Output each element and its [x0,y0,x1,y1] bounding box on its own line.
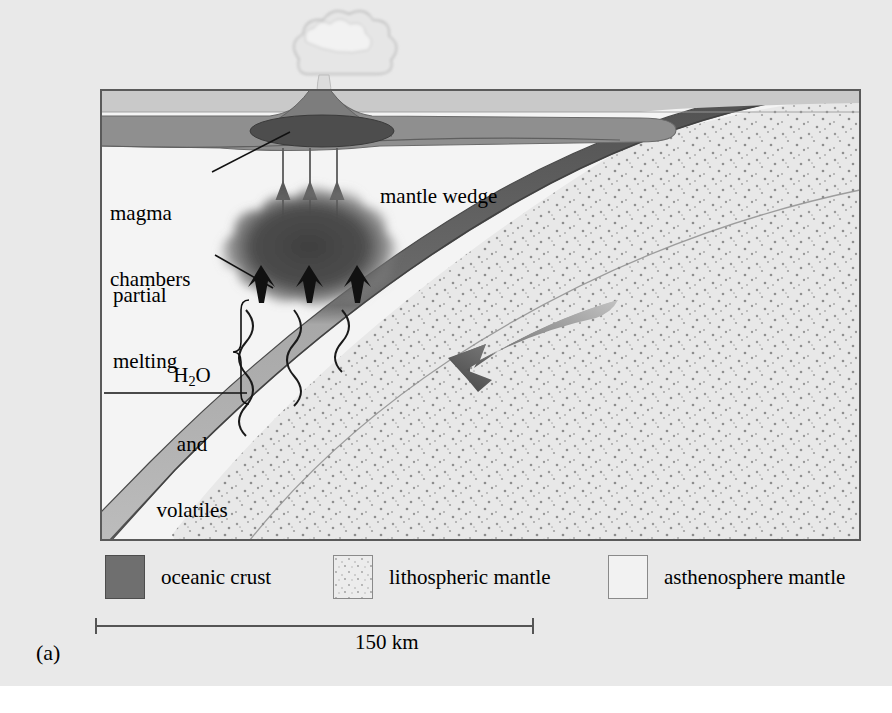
subduction-diagram-figure: magma chambers partial melting H2O and v… [0,0,892,686]
legend-swatch-oceanic-crust [105,555,145,599]
eruption-plume-icon [294,11,397,99]
h2o-subscript: 2 [188,373,195,389]
legend-label-asthenosphere-mantle: asthenosphere mantle [664,565,845,590]
label-h2o-line3: volatiles [137,499,247,521]
scale-bar [96,618,533,634]
label-magma-chambers-line1: magma [110,202,190,224]
label-partial-melting-line1: partial [113,284,177,306]
label-h2o-volatiles: H2O and volatiles [137,320,247,543]
legend-swatch-asthenosphere-mantle [608,555,648,599]
h2o-o: O [196,363,211,387]
legend-label-oceanic-crust: oceanic crust [161,565,271,590]
label-mantle-wedge: mantle wedge [380,185,497,207]
label-h2o-line2: and [137,433,247,455]
scale-bar-label: 150 km [355,630,419,655]
figure-page: magma chambers partial melting H2O and v… [0,0,892,686]
h2o-h: H [173,363,188,387]
label-h2o-formula: H2O [137,364,247,389]
panel-label: (a) [36,640,60,666]
legend-label-lithospheric-mantle: lithospheric mantle [389,565,551,590]
legend-swatch-lithospheric-mantle [333,555,373,599]
